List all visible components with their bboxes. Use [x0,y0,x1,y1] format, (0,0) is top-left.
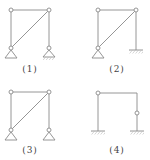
structures-diagram [0,0,150,160]
pin-support-icon [43,132,55,140]
hinge-icon [135,111,139,115]
figure-4 [91,91,144,135]
figure-2 [92,8,143,58]
figure-label-1: (1) [10,64,50,74]
pin-support-icon [43,50,55,57]
figure-1 [5,8,55,60]
diagonal-brace [11,10,49,48]
hinge-icon [9,8,13,12]
figure-label-3: (3) [10,145,50,155]
hinge-icon [47,90,51,94]
figure-label-2: (2) [97,64,137,74]
pin-support-icon [5,132,17,140]
pin-support-icon [92,50,104,58]
ground-hatch [129,51,143,54]
figure-3 [5,90,55,140]
ground-hatch [130,132,144,135]
diagonal-brace [11,92,49,130]
figure-label-4: (4) [97,145,137,155]
hinge-icon [96,91,100,95]
diagonal-brace [98,10,136,48]
hinge-icon [9,90,13,94]
ground-hatch [91,132,105,135]
ground-hatch [43,58,55,61]
hinge-icon [47,8,51,12]
pin-support-icon [5,50,17,58]
hinge-icon [134,8,138,12]
hinge-icon [96,8,100,12]
